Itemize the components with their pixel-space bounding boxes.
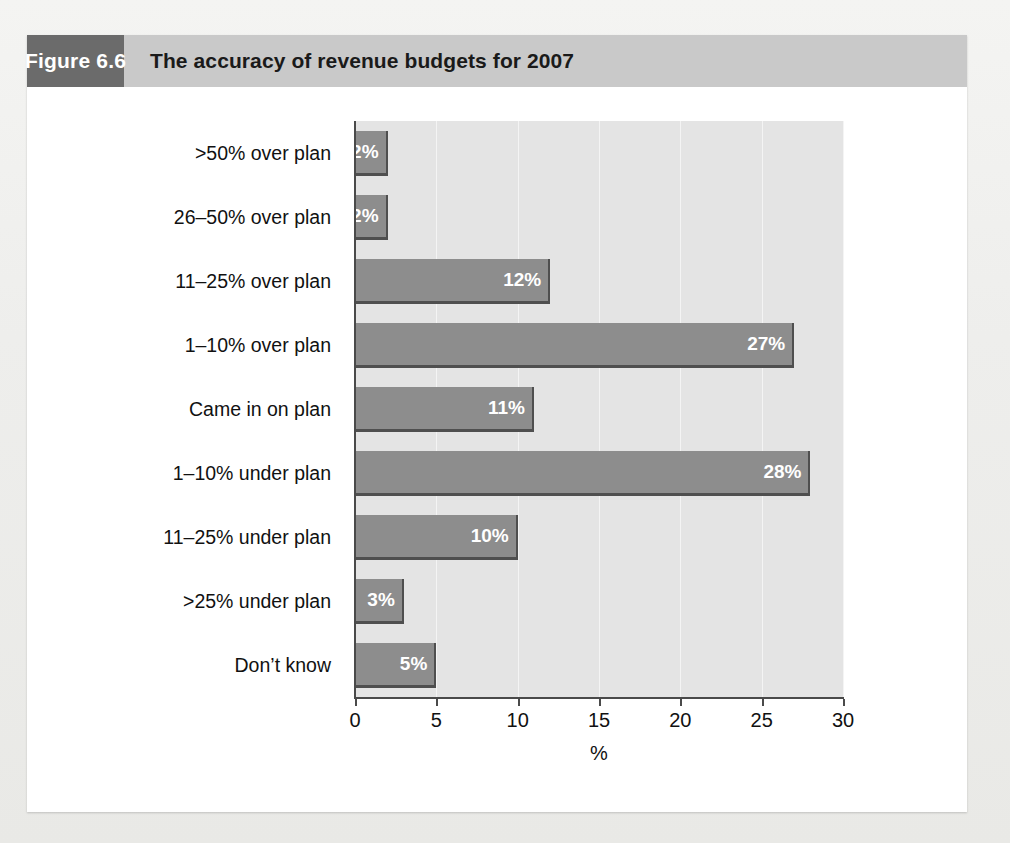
x-axis-tick	[680, 699, 682, 706]
bar-value-label: 10%	[471, 525, 516, 547]
x-axis-tick	[599, 699, 601, 706]
bar: 2%	[355, 195, 388, 240]
plot-area: 2%2%12%27%11%28%10%3%5%	[355, 121, 843, 697]
x-axis-tick-label: 25	[751, 709, 773, 732]
bar-value-label: 3%	[367, 589, 401, 611]
bar-value-label: 2%	[351, 205, 385, 227]
bar-row: 12%	[355, 249, 843, 313]
x-axis-title: %	[590, 742, 608, 765]
y-axis-category-labels: >50% over plan26–50% over plan11–25% ove…	[27, 121, 347, 697]
bar-row: 10%	[355, 505, 843, 569]
bar-row: 27%	[355, 313, 843, 377]
figure-card: Figure 6.6 The accuracy of revenue budge…	[27, 35, 967, 812]
bar: 3%	[355, 579, 404, 624]
page-background: Figure 6.6 The accuracy of revenue budge…	[0, 0, 1010, 843]
bar-row: 28%	[355, 441, 843, 505]
y-axis-line	[354, 121, 356, 699]
bar-value-label: 2%	[351, 141, 385, 163]
x-axis-tick-label: 20	[669, 709, 691, 732]
x-axis-tick	[762, 699, 764, 706]
category-label: 11–25% under plan	[27, 505, 347, 569]
x-axis-tick-label: 5	[431, 709, 442, 732]
category-label: Came in on plan	[27, 377, 347, 441]
category-label: 1–10% under plan	[27, 441, 347, 505]
bar: 2%	[355, 131, 388, 176]
bar-row: 5%	[355, 633, 843, 697]
category-label: 26–50% over plan	[27, 185, 347, 249]
category-label: Don’t know	[27, 633, 347, 697]
bar: 5%	[355, 643, 436, 688]
bar: 12%	[355, 259, 550, 304]
x-axis-tick	[355, 699, 357, 706]
figure-number-label: Figure 6.6	[25, 49, 126, 73]
bar-row: 2%	[355, 121, 843, 185]
chart-region: >50% over plan26–50% over plan11–25% ove…	[27, 87, 967, 812]
figure-title-container: The accuracy of revenue budgets for 2007	[124, 35, 967, 87]
bar-series: 2%2%12%27%11%28%10%3%5%	[355, 121, 843, 697]
bar-value-label: 12%	[503, 269, 548, 291]
bar-row: 11%	[355, 377, 843, 441]
figure-title: The accuracy of revenue budgets for 2007	[150, 49, 574, 73]
bar-value-label: 28%	[763, 461, 808, 483]
bar: 28%	[355, 451, 810, 496]
x-axis-tick	[843, 699, 845, 706]
bar-value-label: 5%	[400, 653, 434, 675]
category-label: 11–25% over plan	[27, 249, 347, 313]
category-label: >50% over plan	[27, 121, 347, 185]
category-label: 1–10% over plan	[27, 313, 347, 377]
x-axis-tick-label: 0	[349, 709, 360, 732]
bar-value-label: 11%	[488, 397, 532, 419]
x-axis-tick	[518, 699, 520, 706]
bar-value-label: 27%	[747, 333, 792, 355]
bar: 27%	[355, 323, 794, 368]
gridline	[843, 121, 844, 697]
bar: 10%	[355, 515, 518, 560]
x-axis-tick	[436, 699, 438, 706]
bar-row: 2%	[355, 185, 843, 249]
figure-number-badge: Figure 6.6	[27, 35, 124, 87]
bar-row: 3%	[355, 569, 843, 633]
x-axis-tick-label: 30	[832, 709, 854, 732]
x-axis-tick-label: 15	[588, 709, 610, 732]
category-label: >25% under plan	[27, 569, 347, 633]
figure-header: Figure 6.6 The accuracy of revenue budge…	[27, 35, 967, 87]
bar: 11%	[355, 387, 534, 432]
x-axis-tick-label: 10	[507, 709, 529, 732]
